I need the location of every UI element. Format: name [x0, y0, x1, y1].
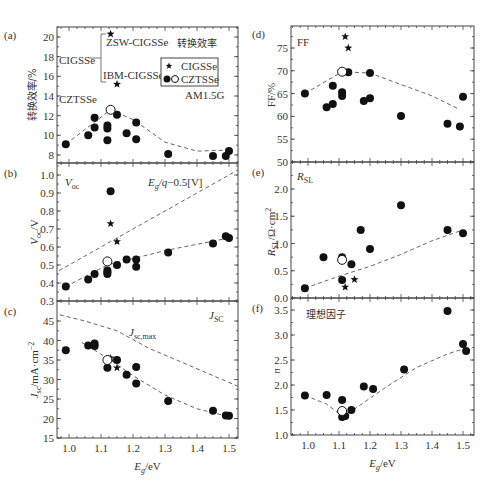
annotation-ff: FF	[297, 36, 309, 48]
data-point	[209, 239, 217, 247]
data-point	[347, 406, 355, 414]
x-axis-label: Eg/eV	[368, 457, 396, 472]
data-point	[113, 261, 121, 269]
x-tick-label: 1.5	[222, 442, 236, 454]
annotation-jsc: JSC	[209, 309, 224, 324]
y-tick-label: 35	[43, 354, 55, 366]
panel-label: (e)	[252, 166, 265, 179]
y-axis-label: n	[270, 368, 282, 374]
data-point	[225, 412, 233, 420]
y-tick-label: 0.5	[40, 259, 54, 271]
x-tick-label: 1.1	[332, 439, 346, 451]
trend-line	[53, 313, 245, 389]
data-point	[84, 131, 92, 139]
data-point	[329, 82, 337, 90]
data-point	[164, 150, 172, 158]
record-point	[103, 257, 112, 266]
data-point	[123, 371, 131, 379]
y-tick-label: 55	[277, 133, 289, 145]
y-tick-label: 0.0	[274, 292, 288, 304]
panel-label: (f)	[252, 302, 263, 315]
data-point	[323, 391, 331, 399]
star-marker-icon	[113, 80, 121, 88]
data-point	[113, 356, 121, 364]
star-marker-icon	[107, 219, 115, 227]
x-tick-label: 1.4	[425, 439, 439, 451]
panel-e: 0.00.51.01.52.0(e)	[252, 162, 474, 304]
data-point	[338, 92, 346, 100]
trend-line	[66, 110, 229, 151]
x-axis-label: Eg/eV	[133, 460, 161, 475]
data-point	[103, 270, 111, 278]
data-point	[225, 234, 233, 242]
data-point	[84, 275, 92, 283]
y-tick-label: 0.8	[40, 205, 54, 217]
data-point	[301, 392, 309, 400]
record-point	[106, 105, 115, 114]
y-tick-label: 2.5	[274, 354, 288, 366]
data-point	[91, 123, 99, 131]
data-point	[444, 307, 452, 315]
figure-canvas: 8101214161820(a)0.30.40.50.60.70.80.91.0…	[0, 0, 494, 484]
trend-line	[305, 230, 463, 288]
y-tick-label: 10	[43, 129, 55, 141]
y-tick-label: 20	[43, 413, 55, 425]
y-axis-label: FF/%	[265, 83, 277, 107]
y-tick-label: 0.6	[40, 241, 54, 253]
panel-label: (b)	[4, 167, 17, 180]
data-point	[357, 226, 365, 234]
y-tick-label: 8	[49, 149, 55, 161]
data-point	[62, 283, 70, 291]
plot-frame	[291, 26, 474, 162]
y-tick-label: 60	[277, 110, 289, 122]
y-tick-label: 15	[43, 432, 55, 444]
x-tick-label: 1.3	[394, 439, 408, 451]
data-point	[132, 135, 140, 143]
y-tick-label: 14	[43, 90, 55, 102]
x-tick-label: 1.5	[456, 439, 470, 451]
y-tick-label: 50	[277, 156, 289, 168]
data-point	[329, 100, 337, 108]
y-tick-label: 16	[43, 70, 55, 82]
panel-f: 1.01.52.02.53.03.51.01.11.21.31.41.5Eg/e…	[252, 298, 474, 472]
data-point	[103, 136, 111, 144]
panel-d: 505560657075(d)	[252, 26, 474, 168]
y-tick-label: 2.0	[274, 379, 288, 391]
data-point	[62, 346, 70, 354]
x-tick-label: 1.0	[301, 439, 315, 451]
data-point	[459, 340, 467, 348]
y-tick-label: 30	[43, 374, 55, 386]
y-tick-label: 0.9	[40, 187, 54, 199]
data-point	[320, 253, 328, 261]
y-tick-label: 65	[277, 88, 289, 100]
trend-line	[305, 349, 463, 416]
data-point	[366, 94, 374, 102]
data-point	[209, 407, 217, 415]
y-axis-label: Jsc/mA·cm−2	[27, 342, 43, 399]
y-tick-label: 18	[43, 51, 55, 63]
legend: CIGSSeCZTSSe	[161, 58, 219, 86]
y-tick-label: 75	[277, 42, 289, 54]
panel-title-efficiency: 转换效率	[177, 37, 217, 49]
data-point	[397, 112, 405, 120]
y-tick-label: 12	[43, 110, 54, 122]
data-point	[103, 124, 111, 132]
data-point	[132, 363, 140, 371]
y-tick-label: 1.0	[274, 429, 288, 441]
panel-label: (c)	[4, 305, 17, 318]
data-point	[459, 93, 467, 101]
y-tick-label: 3.5	[274, 304, 288, 316]
data-point	[366, 69, 374, 77]
data-point	[347, 260, 355, 268]
data-point	[132, 263, 140, 271]
data-point	[225, 147, 233, 155]
star-marker-icon	[341, 32, 349, 40]
data-point	[444, 226, 452, 234]
data-point	[123, 129, 131, 137]
data-point	[360, 383, 368, 391]
y-tick-label: 1.0	[40, 169, 54, 181]
data-point	[338, 396, 346, 404]
data-point	[366, 245, 374, 253]
trend-line	[82, 342, 229, 416]
panel-label: (d)	[252, 28, 265, 41]
